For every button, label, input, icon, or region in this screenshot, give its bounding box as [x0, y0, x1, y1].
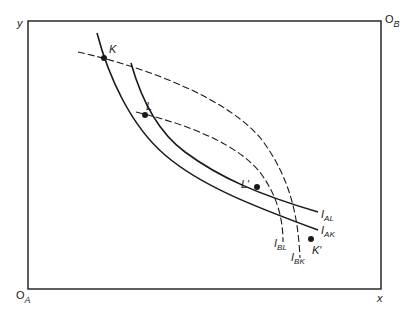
point-K-label: K	[109, 44, 116, 55]
curve-BK-label: IBK	[291, 252, 305, 263]
curve-BL-sub: BL	[277, 243, 287, 252]
origin-A-label: OA	[16, 290, 31, 301]
x-axis-label: x	[377, 293, 383, 304]
curve-AL-sub: AL	[324, 214, 334, 223]
origin-B-sub: B	[394, 19, 400, 29]
curve-AL-label: IAL	[321, 209, 334, 220]
indifference-curve-AL	[131, 63, 318, 212]
point-L-marker	[142, 112, 148, 118]
point-L-prime-label: L′	[241, 179, 249, 190]
curve-AK-sub: AK	[324, 230, 335, 239]
origin-B-label: OB	[385, 14, 400, 25]
point-K-prime-label: K′	[312, 245, 321, 256]
curve-AK-label: IAK	[321, 225, 335, 236]
origin-B-main: O	[385, 13, 394, 25]
curve-BK-sub: BK	[294, 257, 305, 266]
edgeworth-box-diagram	[0, 0, 415, 312]
box-frame	[28, 21, 381, 289]
point-L-prime-marker	[254, 184, 260, 190]
curve-BL-label: IBL	[274, 238, 287, 249]
indifference-curve-AK	[97, 33, 318, 230]
point-L-label: L	[146, 101, 152, 112]
y-axis-label: y	[17, 18, 23, 29]
indifference-curve-BL	[136, 112, 283, 242]
point-K-marker	[101, 55, 107, 61]
origin-A-main: O	[16, 289, 25, 301]
origin-A-sub: A	[25, 295, 31, 305]
point-K-prime-marker	[308, 236, 314, 242]
